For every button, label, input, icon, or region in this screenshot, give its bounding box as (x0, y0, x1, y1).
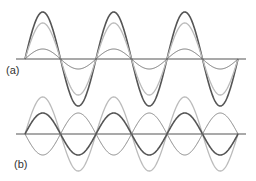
panel-a-label: (a) (6, 64, 19, 76)
panel-b-label: (b) (14, 158, 27, 170)
panel-b (16, 97, 246, 171)
wave-interference-diagram (0, 0, 256, 181)
panel-a (16, 12, 246, 106)
